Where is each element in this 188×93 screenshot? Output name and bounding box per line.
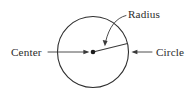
label-center: Center [11, 46, 42, 58]
circle-leader-arrowhead-icon [131, 50, 137, 55]
radius-segment [93, 44, 128, 53]
center-leader-arrowhead-icon [83, 50, 89, 55]
radius-leader-curve [106, 16, 126, 42]
label-radius: Radius [128, 8, 160, 20]
circle-diagram: Center Radius Circle [0, 0, 188, 93]
center-point-dot [91, 50, 96, 55]
diagram-canvas: Center Radius Circle [0, 0, 188, 93]
radius-leader-arrowhead-icon [103, 40, 108, 46]
label-circle: Circle [156, 46, 184, 58]
